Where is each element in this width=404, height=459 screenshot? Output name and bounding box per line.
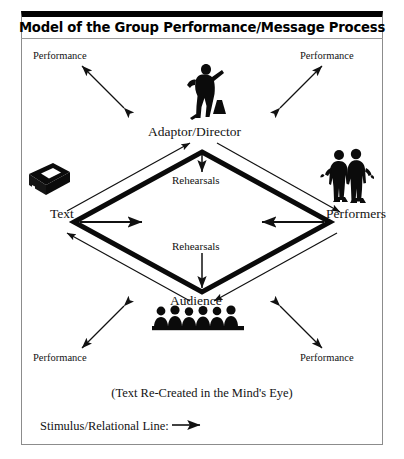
- node-label-adaptor-director: Adaptor/Director: [148, 124, 241, 140]
- corner-label-performance-bottom-right: Performance: [300, 352, 354, 363]
- performance-arrow-top-left: [82, 66, 124, 108]
- node-label-audience: Audience: [170, 293, 222, 309]
- performance-arrow-bottom-left: [82, 306, 124, 348]
- performance-arrow-bottom-right: [280, 306, 322, 348]
- corner-label-performance-bottom-left: Performance: [33, 352, 87, 363]
- director-silhouette-icon: [176, 62, 231, 120]
- inner-label-rehearsals-top: Rehearsals: [172, 174, 220, 186]
- legend-label: Stimulus/Relational Line:: [40, 419, 169, 434]
- node-label-text: Text: [50, 206, 74, 222]
- inner-label-rehearsals-bottom: Rehearsals: [172, 240, 220, 252]
- corner-label-performance-top-left: Performance: [33, 50, 87, 61]
- performance-arrow-top-right: [280, 66, 322, 108]
- figure-container: Model of the Group Performance/Message P…: [0, 0, 404, 459]
- corner-label-performance-top-right: Performance: [300, 50, 354, 61]
- book-icon: [23, 160, 73, 202]
- edge-arrow-performers-to-audience: [214, 233, 337, 301]
- node-label-performers: Performers: [326, 206, 386, 222]
- performers-silhouette-icon: [320, 148, 374, 204]
- figure-caption: (Text Re-Created in the Mind's Eye): [0, 386, 404, 401]
